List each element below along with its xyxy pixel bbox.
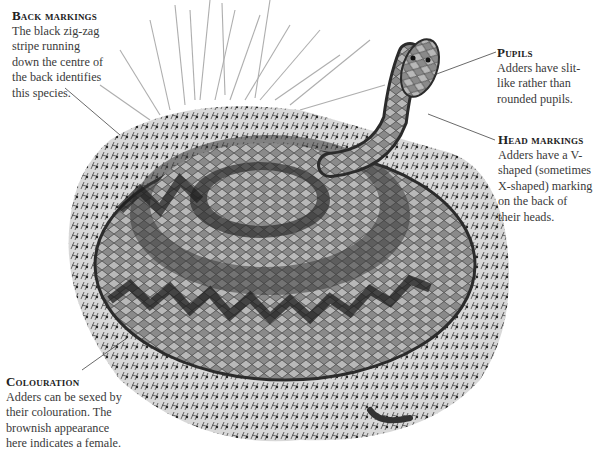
callout-body: Adders have slit- like rather than round… <box>497 61 592 108</box>
callout-head-markings: Head markings Adders have a V- shaped (s… <box>498 132 593 226</box>
callout-title: Colouration <box>6 374 176 390</box>
callout-colouration: Colouration Adders can be sexed by their… <box>6 374 176 452</box>
leader-pupils <box>434 52 496 75</box>
callout-title: Pupils <box>497 45 592 61</box>
callout-back-markings: Back markings The black zig-zag stripe r… <box>12 8 162 102</box>
callout-pupils: Pupils Adders have slit- like rather tha… <box>497 45 592 107</box>
callout-body: The black zig-zag stripe running down th… <box>12 24 162 102</box>
callout-title: Back markings <box>12 8 162 24</box>
leader-head-markings <box>428 114 495 140</box>
callout-title: Head markings <box>498 132 593 148</box>
callout-body: Adders can be sexed by their colouration… <box>6 390 176 452</box>
callout-body: Adders have a V- shaped (sometimes X-sha… <box>498 148 593 226</box>
